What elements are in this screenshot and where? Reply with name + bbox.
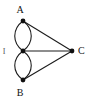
edge-a-c (23, 21, 72, 51)
vertex-a (21, 19, 26, 24)
vertex-label-i: I (3, 47, 6, 56)
edge-b-c (23, 51, 72, 80)
vertex-label-c: C (78, 45, 85, 56)
vertex-label-a: A (16, 4, 24, 15)
vertex-i (21, 49, 26, 54)
edge-a-i-left (15, 21, 23, 51)
graph-canvas: A I B C (0, 0, 88, 101)
edge-i-b-left (15, 51, 23, 80)
vertex-b (21, 78, 26, 83)
vertex-label-b: B (17, 87, 24, 98)
vertex-c (70, 49, 75, 54)
multigraph-diagram: A I B C (0, 0, 88, 101)
